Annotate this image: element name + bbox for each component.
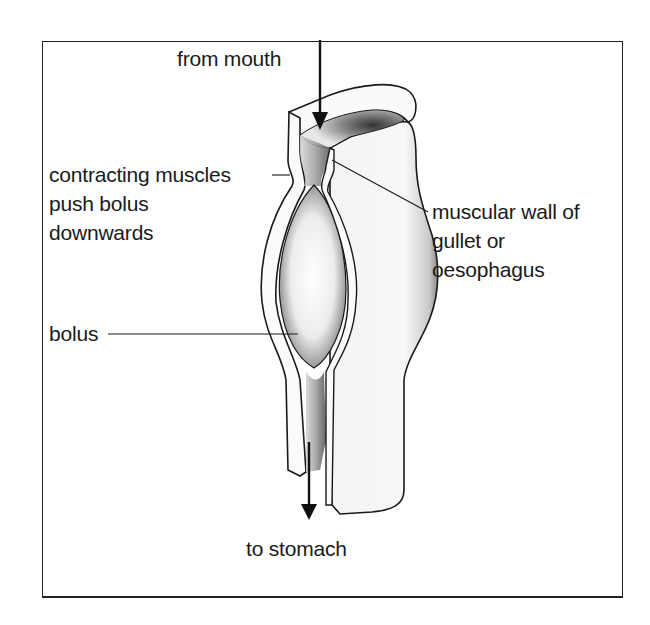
label-downwards: downwards <box>49 218 153 247</box>
label-oesophagus: oesophagus <box>432 255 544 284</box>
label-muscular-wall: muscular wall of <box>432 197 579 226</box>
from-mouth-arrow <box>312 40 328 130</box>
label-from-mouth: from mouth <box>177 44 281 73</box>
label-push-bolus: push bolus <box>49 189 149 218</box>
label-to-stomach: to stomach <box>246 534 347 563</box>
oesophagus-illustration <box>0 0 650 625</box>
label-gullet-or: gullet or <box>432 226 505 255</box>
label-bolus: bolus <box>49 319 98 348</box>
label-contracting-muscles: contracting muscles <box>49 160 231 189</box>
